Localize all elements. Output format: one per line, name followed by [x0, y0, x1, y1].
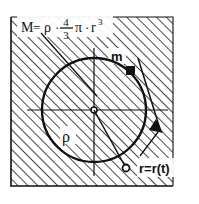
- radius-function-label: r=r(t): [139, 161, 170, 176]
- point-mass-marker: [126, 66, 135, 75]
- density-label: ρ: [62, 128, 70, 146]
- physics-diagram-figure: M = ρ · 4 3 π · r 3 m ρ r=r(t): [0, 0, 199, 204]
- formula-pi: π: [75, 20, 82, 35]
- formula-exponent: 3: [98, 17, 103, 27]
- formula-equals: =: [33, 20, 40, 35]
- formula-fraction-denominator: 3: [63, 29, 69, 41]
- formula-dot-1: ·: [55, 20, 59, 35]
- diagram-canvas: M = ρ · 4 3 π · r 3 m ρ r=r(t): [0, 0, 199, 204]
- orbit-position-marker: [123, 165, 130, 172]
- formula-rho: ρ: [44, 20, 51, 35]
- point-mass-label: m: [111, 49, 123, 64]
- formula-dot-2: ·: [85, 20, 89, 35]
- formula-r: r: [91, 20, 96, 35]
- formula-fraction-numerator: 4: [63, 16, 69, 28]
